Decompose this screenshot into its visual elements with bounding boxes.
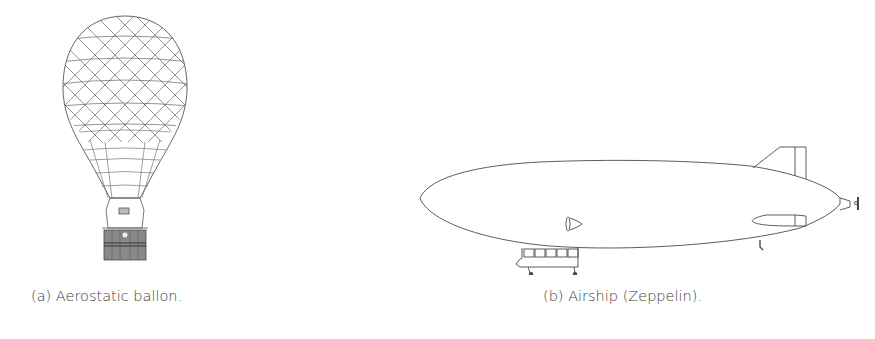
caption-b-label: (b) [543, 288, 564, 304]
airship-illustration [410, 140, 870, 275]
balloon-figure [50, 10, 200, 270]
caption-a: (a) Aerostatic ballon. [31, 288, 182, 304]
airship-envelope [420, 160, 840, 248]
caption-a-label: (a) [31, 288, 51, 304]
balloon-illustration [50, 10, 200, 270]
airship-side-propeller [566, 217, 570, 231]
balloon-envelope [63, 16, 187, 198]
caption-b-text: Airship (Zeppelin). [568, 288, 702, 304]
airship-lower-fin [752, 215, 806, 226]
airship-upper-fin [753, 147, 806, 179]
airship-figure [410, 140, 870, 275]
caption-b: (b) Airship (Zeppelin). [543, 288, 702, 304]
balloon-net [50, 10, 200, 170]
caption-a-text: Aerostatic ballon. [56, 288, 182, 304]
balloon-basket [104, 230, 146, 260]
balloon-burner [102, 198, 148, 228]
airship-rear-gear [760, 240, 763, 250]
airship-gondola [516, 248, 578, 275]
airship-tail-propeller [840, 198, 850, 210]
